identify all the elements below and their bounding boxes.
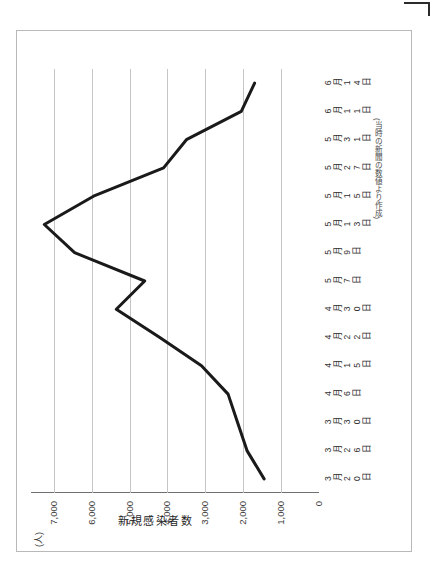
figure-frame: 01,0002,0003,0004,0005,0006,0007,000 (人)… — [16, 30, 412, 552]
y-axis-unit-label: (人) — [32, 532, 45, 547]
data-series-line — [31, 69, 319, 493]
page-root: 01,0002,0003,0004,0005,0006,0007,000 (人)… — [0, 0, 434, 580]
x-axis-tick-label: 5月15日 — [323, 192, 371, 201]
y-axis-tick-label: 2,000 — [237, 501, 248, 553]
x-axis-tick-label: 4月6日 — [323, 390, 361, 399]
x-axis-tick-label: 6月14日 — [323, 79, 371, 88]
x-axis-tick-label: 5月13日 — [323, 220, 371, 229]
x-axis-tick-labels: 3月20日3月26日3月30日4月6日4月15日4月22日4月30日5月7日5月… — [323, 69, 401, 493]
x-axis-tick-label: 3月30日 — [323, 418, 371, 427]
x-axis-tick-label: 4月15日 — [323, 361, 371, 370]
x-axis-tick-label: 5月7日 — [323, 277, 361, 286]
rotated-chart-wrapper: 01,0002,0003,0004,0005,0006,0007,000 (人)… — [17, 31, 413, 553]
x-axis-tick-label: 5月31日 — [323, 135, 371, 144]
y-axis-tick-label: 1,000 — [275, 501, 286, 553]
source-note: (当時の新聞の数値より作成) — [372, 118, 383, 219]
x-axis-tick-label: 5月27日 — [323, 164, 371, 173]
y-axis-tick-label: 3,000 — [199, 501, 210, 553]
x-axis-tick-label: 3月20日 — [323, 474, 371, 483]
crop-mark-horizontal-bar — [404, 2, 430, 4]
crop-register-mark — [404, 2, 430, 16]
x-axis-tick-label: 6月11日 — [323, 107, 371, 116]
x-axis-tick-label: 3月26日 — [323, 446, 371, 455]
x-axis-tick-label: 4月22日 — [323, 333, 371, 342]
x-axis-tick-label: 4月30日 — [323, 305, 371, 314]
x-axis-tick-label: 5月9日 — [323, 248, 361, 257]
series-polyline — [44, 83, 264, 479]
y-axis-tick-label: 0 — [313, 501, 324, 553]
y-axis-tick-label: 7,000 — [48, 501, 59, 553]
crop-mark-vertical-bar — [428, 2, 430, 16]
y-axis-title: 新規感染者数 — [118, 512, 193, 528]
plot-area — [31, 69, 319, 493]
chart-canvas: 01,0002,0003,0004,0005,0006,0007,000 (人)… — [17, 31, 413, 553]
y-axis-tick-label: 6,000 — [86, 501, 97, 553]
